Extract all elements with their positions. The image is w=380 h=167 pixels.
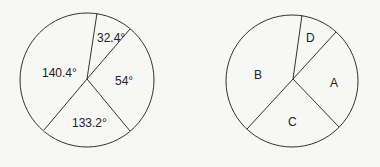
- right-pie-chart: D A C B: [226, 15, 358, 147]
- left-label-c: 133.2°: [72, 116, 107, 130]
- right-label-c: C: [288, 115, 297, 129]
- right-label-d: D: [306, 31, 315, 45]
- right-label-a: A: [330, 76, 338, 90]
- left-pie-chart: 32.4° 54° 133.2° 140.4°: [20, 13, 154, 147]
- left-label-d: 32.4°: [97, 31, 125, 45]
- right-divider-c-b: [247, 79, 293, 129]
- pie-charts-canvas: 32.4° 54° 133.2° 140.4° D A C B: [0, 0, 380, 167]
- right-divider-b-d: [293, 15, 302, 79]
- right-label-b: B: [254, 68, 262, 82]
- left-label-b: 140.4°: [42, 66, 77, 80]
- left-label-a: 54°: [115, 74, 133, 88]
